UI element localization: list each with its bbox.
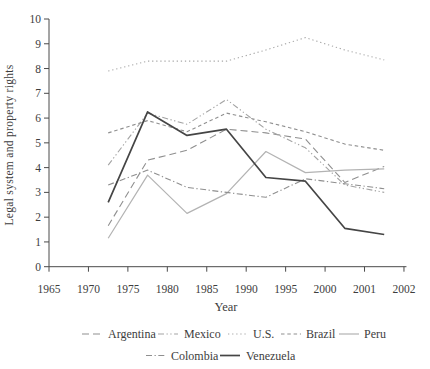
x-tick-label: 1975	[116, 283, 139, 295]
legend-label-brazil: Brazil	[306, 327, 336, 341]
x-tick-label: 1990	[235, 283, 258, 295]
data-series	[108, 38, 384, 239]
series-line-colombia	[108, 170, 384, 197]
y-tick-label: 1	[35, 236, 41, 248]
x-axis-title: Year	[214, 300, 238, 314]
legend-label-colombia: Colombia	[171, 349, 219, 363]
y-tick-label: 8	[35, 63, 41, 75]
chart-canvas: Legal system and property rights Year 19…	[0, 0, 430, 369]
axes: 1965197019751980198519901995200020012002…	[30, 13, 416, 295]
line-chart-figure: Legal system and property rights Year 19…	[0, 0, 430, 369]
legend-label-argentina: Argentina	[108, 327, 156, 341]
series-line-us	[108, 38, 384, 71]
legend-label-venezuela: Venezuela	[246, 349, 296, 363]
y-tick-label: 0	[35, 261, 41, 273]
y-tick-label: 7	[35, 87, 41, 99]
x-tick-label: 1970	[77, 283, 100, 295]
x-tick-label: 1985	[195, 283, 218, 295]
x-tick-label: 2000	[314, 283, 337, 295]
y-tick-label: 3	[35, 186, 41, 198]
legend: ArgentinaMexicoU.S.BrazilPeruColombiaVen…	[82, 327, 386, 363]
x-tick-label: 1965	[38, 283, 61, 295]
y-tick-label: 6	[35, 112, 41, 124]
x-tick-label: 1995	[274, 283, 297, 295]
legend-label-mexico: Mexico	[184, 327, 221, 341]
y-tick-label: 10	[30, 13, 42, 25]
y-tick-label: 5	[35, 137, 41, 149]
y-tick-label: 9	[35, 38, 41, 50]
series-line-brazil	[108, 113, 384, 150]
legend-label-peru: Peru	[364, 327, 386, 341]
x-tick-label: 2002	[392, 283, 415, 295]
x-tick-label: 2001	[353, 283, 376, 295]
legend-label-us: U.S.	[253, 327, 274, 341]
y-tick-label: 2	[35, 211, 41, 223]
x-tick-label: 1980	[156, 283, 179, 295]
y-tick-label: 4	[35, 162, 41, 174]
y-axis-title: Legal system and property rights	[3, 64, 16, 225]
